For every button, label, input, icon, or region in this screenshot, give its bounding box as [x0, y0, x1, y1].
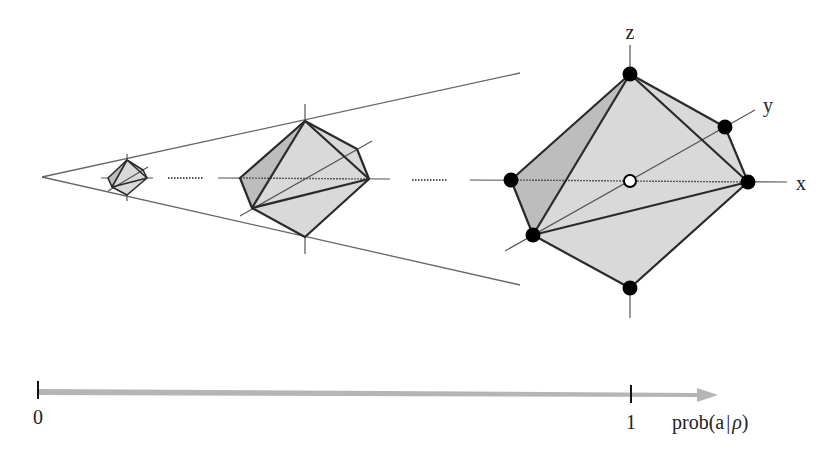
- octahedron-small: [101, 154, 153, 201]
- axis-label-y: y: [763, 94, 773, 117]
- axis-label-rho: ρ: [731, 411, 742, 434]
- axis-label-prefix: prob(a: [672, 411, 724, 434]
- axis-label-suffix: ): [742, 411, 749, 434]
- tick-0-label: 0: [33, 406, 43, 428]
- vertex-z-minus: [623, 281, 638, 296]
- axis-label-bar: |: [726, 411, 730, 434]
- axis-label-x: x: [796, 172, 806, 194]
- vertex-y-plus: [718, 120, 733, 135]
- probability-axis: 0 1 prob(a|ρ): [33, 381, 749, 434]
- medium-x-axis-inner: [240, 178, 369, 179]
- axis-label-z: z: [626, 21, 635, 43]
- octahedron-cone-diagram: z y x 0 1 prob(a|ρ): [0, 0, 830, 449]
- octahedron-medium: [218, 104, 390, 254]
- probability-arrow: [38, 388, 718, 402]
- vertex-y-minus: [526, 228, 541, 243]
- vertex-x-plus: [741, 175, 756, 190]
- center-hollow-marker: [624, 175, 636, 187]
- tick-1-label: 1: [626, 411, 636, 433]
- octahedron-large: z y x: [470, 21, 806, 318]
- vertex-x-minus: [504, 173, 519, 188]
- probability-axis-label: prob(a|ρ): [672, 411, 749, 434]
- vertex-z-plus: [623, 67, 638, 82]
